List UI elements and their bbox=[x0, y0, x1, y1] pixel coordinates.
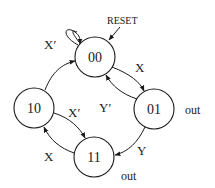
edge-label-01-11: Y bbox=[137, 143, 147, 158]
edge-label-00-00: X′ bbox=[44, 37, 56, 52]
state-label-00: 00 bbox=[88, 50, 102, 65]
edge-label-01-00: Y′ bbox=[99, 100, 111, 115]
reset-arrow bbox=[109, 27, 120, 40]
output-label-01: out bbox=[185, 103, 201, 117]
edge-10-00 bbox=[45, 61, 75, 90]
state-label-10: 10 bbox=[27, 101, 41, 116]
state-10: 10 bbox=[14, 88, 54, 128]
state-00: 00 bbox=[75, 37, 115, 77]
edge-label-11-10: X bbox=[44, 149, 54, 164]
reset-label: RESET bbox=[107, 15, 138, 26]
edge-label-00-01: X bbox=[135, 60, 145, 75]
edge-label-10-11: X′ bbox=[68, 105, 80, 120]
edge-01-00 bbox=[106, 75, 137, 99]
state-label-11: 11 bbox=[87, 150, 100, 165]
state-diagram: RESET X′ X Y′ Y X′ X 00 01 10 11 out out bbox=[0, 0, 215, 188]
state-01: 01 bbox=[134, 89, 174, 129]
state-label-01: 01 bbox=[147, 102, 161, 117]
state-11: 11 bbox=[74, 137, 114, 177]
output-label-11: out bbox=[121, 169, 137, 183]
